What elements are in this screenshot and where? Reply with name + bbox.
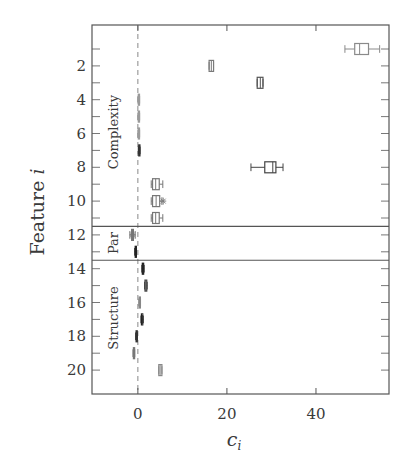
y-tick-label: 16 <box>67 294 86 312</box>
group-label-par: Par <box>106 231 121 254</box>
group-label-structure: Structure <box>106 286 121 350</box>
x-tick-label: 0 <box>133 405 143 423</box>
box-plot-chart: 02040 2468101214161820 Complexity Par St… <box>0 0 412 476</box>
box-feature-4 <box>138 94 140 105</box>
y-tick-label: 12 <box>67 226 86 244</box>
x-tick-label: 40 <box>306 405 325 423</box>
x-tick-label: 20 <box>217 405 236 423</box>
y-tick-label: 8 <box>76 158 86 176</box>
box-feature-7 <box>138 145 140 156</box>
group-label-complexity: Complexity <box>106 94 121 169</box>
y-tick-label: 4 <box>76 91 86 109</box>
y-tick-label: 10 <box>67 192 86 210</box>
box-feature-19 <box>133 348 135 359</box>
outlier-star-marker <box>160 198 166 205</box>
y-tick-label: 2 <box>76 57 86 75</box>
outlier-star-marker <box>130 231 136 238</box>
x-axis-title-subscript: i <box>237 439 241 453</box>
box-feature-20 <box>159 365 162 376</box>
x-axis-title: ci <box>227 428 242 453</box>
box-feature-6 <box>138 128 140 139</box>
box-feature-13 <box>135 246 137 257</box>
y-axis-title-main: Feature <box>26 175 48 256</box>
x-axis-title-main: c <box>227 428 238 450</box>
y-tick-label: 6 <box>76 125 86 143</box>
y-tick-label: 20 <box>67 361 86 379</box>
box-feature-18 <box>136 331 138 342</box>
y-tick-label: 18 <box>67 327 86 345</box>
box-feature-14 <box>142 263 144 274</box>
box-feature-17 <box>141 314 143 325</box>
y-axis-title-var: i <box>26 168 48 174</box>
y-axis-title: Feature i <box>26 168 48 255</box>
box-feature-5 <box>138 111 140 122</box>
box-feature-15 <box>145 280 148 291</box>
box-feature-16 <box>139 297 141 308</box>
y-tick-label: 14 <box>67 260 86 278</box>
